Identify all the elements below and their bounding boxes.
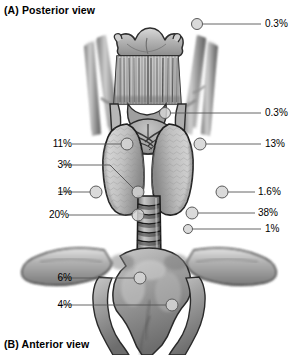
caption-posterior-view: (A) Posterior view bbox=[4, 4, 95, 16]
percent-label: 38% bbox=[258, 208, 278, 218]
percent-label: 1.6% bbox=[258, 187, 281, 197]
percent-label: 0.3% bbox=[265, 19, 288, 29]
percent-label: 20% bbox=[33, 210, 69, 220]
percent-label: 1% bbox=[265, 224, 279, 234]
percent-label: 4% bbox=[36, 300, 72, 310]
percent-label: 3% bbox=[36, 160, 72, 170]
percent-label: 6% bbox=[36, 273, 72, 283]
percent-label: 0.3% bbox=[265, 108, 288, 118]
caption-anterior-view: (B) Anterior view bbox=[4, 338, 89, 350]
percent-label: 13% bbox=[265, 139, 285, 149]
percent-label: 11% bbox=[36, 139, 72, 149]
anatomy-figure: (A) Posterior view (B) Anterior view 0.3… bbox=[0, 0, 295, 355]
percent-label: 1% bbox=[36, 187, 72, 197]
